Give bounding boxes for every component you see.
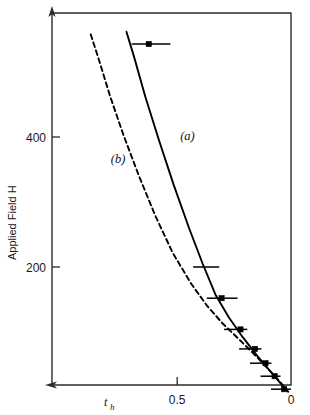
y-axis-tick-labels: 200400 [26,131,46,275]
chart-svg: 200400 0.50 Applied Field H t h (a)(b) [0,0,310,415]
x-tick-label: 0 [288,393,295,407]
plot-frame [52,13,291,385]
marker-filled-square [263,361,268,366]
marker-filled-square [282,387,287,392]
curve-a [126,32,282,386]
y-tick-label: 200 [26,261,46,275]
marker-filled-square [252,346,257,351]
x-axis-title: t h [104,395,115,412]
y-tick-label: 400 [26,131,46,145]
y-axis-title: Applied Field H [6,185,18,260]
y-axis-ticks [52,137,60,267]
x-axis-tick-labels: 0.50 [169,393,295,407]
data-point [207,296,238,301]
curve-b [91,34,289,392]
marker-filled-square [272,374,277,379]
marker-filled-square [238,327,243,332]
data-point [132,41,171,46]
x-axis-title-subscript: h [110,402,115,412]
figure-container: 200400 0.50 Applied Field H t h (a)(b) [0,0,310,415]
chart-curves [91,32,289,392]
axis-arrows [45,6,57,388]
x-axis-title-main: t [104,395,108,409]
x-tick-label: 0.5 [169,393,186,407]
curve-label-b: (b) [111,152,126,166]
marker-filled-square [219,296,224,301]
marker-filled-square [146,41,151,46]
curve-label-a: (a) [180,129,195,143]
frame-border [52,13,291,385]
